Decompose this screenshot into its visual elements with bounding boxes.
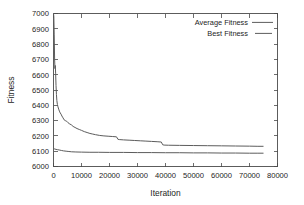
x-tick-label: 0	[51, 171, 55, 180]
y-axis-title: Fitness	[6, 77, 16, 104]
x-tick-label: 50000	[183, 171, 204, 180]
y-tick-label: 6400	[32, 101, 49, 110]
x-tick-label: 20000	[99, 171, 120, 180]
y-tick-label: 7000	[32, 9, 49, 18]
x-tick-labels: 0 10000 20000 30000 40000 50000 60000 70…	[51, 171, 288, 180]
chart-canvas: 7000 6900 6800 6700 6600 6500 6400 6300 …	[0, 0, 304, 205]
y-tick-label: 6200	[32, 132, 49, 141]
x-tick-label: 80000	[267, 171, 288, 180]
x-tick-label: 10000	[71, 171, 92, 180]
y-tick-label: 6700	[32, 55, 49, 64]
x-tick-label: 30000	[127, 171, 148, 180]
y-tick-label: 6600	[32, 71, 49, 80]
y-tick-label: 6000	[32, 162, 49, 171]
y-tick-label: 6800	[32, 40, 49, 49]
y-tick-label: 6300	[32, 116, 49, 125]
fitness-convergence-chart: 7000 6900 6800 6700 6600 6500 6400 6300 …	[0, 0, 304, 205]
y-tick-label: 6900	[32, 25, 49, 34]
x-tick-label: 60000	[211, 171, 232, 180]
y-tick-label: 6500	[32, 86, 49, 95]
y-tick-label: 6100	[32, 147, 49, 156]
y-tick-labels: 7000 6900 6800 6700 6600 6500 6400 6300 …	[32, 9, 49, 171]
legend-label-best-fitness: Best Fitness	[207, 29, 248, 38]
legend-label-average-fitness: Average Fitness	[195, 18, 249, 27]
x-tick-label: 40000	[155, 171, 176, 180]
x-tick-label: 70000	[239, 171, 260, 180]
x-axis-title: Iteration	[150, 188, 181, 198]
